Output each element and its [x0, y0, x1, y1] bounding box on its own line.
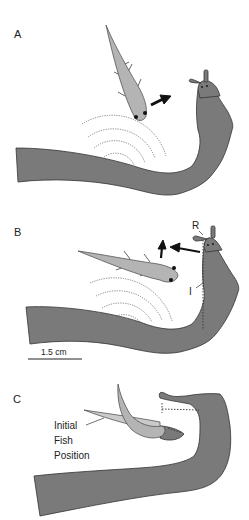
panel-a-predator-head: [189, 70, 220, 98]
panel-b: B R I: [14, 220, 239, 359]
panel-c-fish-captured: [118, 384, 165, 438]
scale-bar-label: 1.5 cm: [41, 347, 67, 357]
panel-c-leader-line: [86, 418, 104, 425]
panel-b-predator-body: [26, 238, 239, 353]
panel-b-label: B: [14, 226, 21, 238]
panel-b-arrows: [158, 240, 200, 258]
panel-a-arrow: [151, 95, 171, 105]
panel-c-label: C: [13, 393, 21, 405]
figure-canvas: A: [0, 0, 249, 520]
initial-fish-position-line2: Fish: [54, 435, 73, 446]
initial-fish-position-line1: Initial: [54, 420, 77, 431]
scale-bar: 1.5 cm: [28, 347, 82, 359]
panel-b-r-label: R: [192, 220, 199, 231]
panel-a-predator-body: [16, 83, 233, 195]
panel-a: A: [14, 25, 233, 195]
panel-a-label: A: [14, 28, 22, 40]
panel-b-fish: [78, 251, 178, 282]
panel-b-i-label: I: [189, 286, 192, 297]
panel-a-fish: [106, 25, 147, 121]
initial-fish-position-label: Initial Fish Position: [54, 420, 90, 461]
initial-fish-position-line3: Position: [54, 450, 90, 461]
panel-c: C Initial Fish Position: [13, 384, 231, 516]
